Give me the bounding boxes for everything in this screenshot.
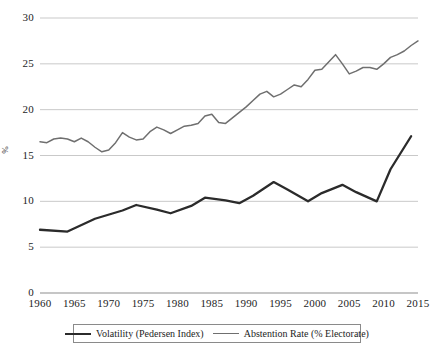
line-chart: % 302520151050 1960196519701975198019851… bbox=[0, 0, 433, 351]
legend-line-icon-abstention bbox=[213, 333, 239, 334]
y-tick-label: 10 bbox=[8, 194, 34, 206]
series-lines bbox=[40, 41, 418, 232]
legend-line-icon-volatility bbox=[65, 333, 91, 335]
series-line-volatility bbox=[40, 136, 411, 231]
legend-label-abstention: Abstention Rate (% Electorate) bbox=[244, 328, 369, 339]
y-tick-label: 25 bbox=[8, 57, 34, 69]
legend-label-volatility: Volatility (Pedersen Index) bbox=[96, 328, 204, 339]
series-line-abstention bbox=[40, 41, 418, 152]
y-tick-label: 15 bbox=[8, 149, 34, 161]
legend-entry-volatility: Volatility (Pedersen Index) bbox=[65, 328, 204, 339]
legend-entry-abstention: Abstention Rate (% Electorate) bbox=[213, 328, 369, 339]
gridlines bbox=[40, 18, 418, 247]
y-tick-label: 5 bbox=[8, 240, 34, 252]
y-tick-label: 30 bbox=[8, 11, 34, 23]
y-tick-label: 20 bbox=[8, 103, 34, 115]
chart-legend: Volatility (Pedersen Index) Abstention R… bbox=[73, 324, 361, 343]
x-tick-label: 2015 bbox=[398, 297, 433, 309]
